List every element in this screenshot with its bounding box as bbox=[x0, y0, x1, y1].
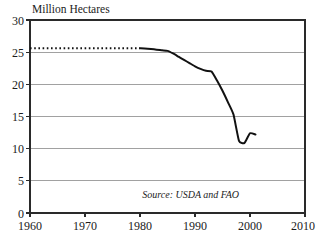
x-label-1990: 1990 bbox=[183, 219, 207, 233]
y-label-5: 5 bbox=[18, 174, 24, 188]
y-label-15: 15 bbox=[12, 110, 24, 124]
y-label-20: 20 bbox=[12, 78, 24, 92]
x-label-1980: 1980 bbox=[128, 219, 152, 233]
y-label-10: 10 bbox=[12, 142, 24, 156]
source-note: Source: USDA and FAO bbox=[142, 189, 239, 200]
y-label-30: 30 bbox=[12, 14, 24, 28]
chart-title: Million Hectares bbox=[32, 3, 110, 15]
line-chart: Million Hectares bbox=[0, 0, 325, 247]
x-label-1970: 1970 bbox=[73, 219, 97, 233]
x-label-2010: 2010 bbox=[291, 219, 315, 233]
chart-background bbox=[0, 0, 325, 247]
x-label-1960: 1960 bbox=[18, 219, 42, 233]
chart-figure: Million Hectares bbox=[0, 0, 325, 247]
y-label-25: 25 bbox=[12, 46, 24, 60]
x-label-2000: 2000 bbox=[238, 219, 262, 233]
